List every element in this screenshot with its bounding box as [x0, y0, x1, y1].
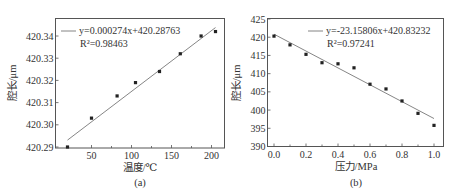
chart-b-equation: y=-23.15806x+420.83232: [326, 25, 431, 36]
data-point: [320, 61, 323, 64]
x-tick-label: 1.0: [428, 149, 441, 160]
y-tick-label: 420.31: [26, 97, 54, 108]
chart-a-r2: R²=0.98463: [80, 38, 128, 49]
y-tick-label: 390: [251, 141, 266, 152]
data-point: [179, 52, 182, 55]
x-tick-label: 0.8: [396, 149, 409, 160]
x-tick-label: 0.4: [332, 149, 345, 160]
chart-a-y-axis: 420.29420.30420.31420.32420.33420.34: [26, 31, 59, 153]
data-point: [134, 81, 137, 84]
chart-a-x-axis: 50100150200: [87, 145, 220, 161]
data-point: [200, 34, 203, 37]
y-tick-label: 395: [251, 123, 266, 134]
chart-b: 390395400405410415420425 0.00.20.40.60.8…: [230, 14, 444, 190]
data-point: [432, 124, 435, 127]
x-tick-label: 150: [164, 150, 179, 161]
chart-b-x-label: 压力/MPa: [335, 160, 378, 172]
y-tick-label: 400: [251, 105, 266, 116]
chart-b-panel-label: (b): [350, 177, 363, 189]
y-tick-label: 420.33: [26, 53, 54, 64]
x-tick-label: 100: [124, 150, 139, 161]
y-tick-label: 420: [251, 32, 266, 43]
chart-a-y-label: 腔长/μm: [6, 65, 18, 102]
x-tick-label: 50: [87, 150, 97, 161]
data-point: [400, 99, 403, 102]
data-point: [384, 87, 387, 90]
chart-a-legend: y=0.000274x+420.28763 R²=0.98463: [61, 25, 180, 49]
data-point: [90, 117, 93, 120]
y-tick-label: 420.29: [26, 142, 54, 153]
y-tick-label: 415: [251, 50, 266, 61]
x-tick-label: 200: [204, 150, 219, 161]
figure: 420.29420.30420.31420.32420.33420.34 501…: [0, 0, 450, 196]
data-point: [368, 83, 371, 86]
data-point: [116, 94, 119, 97]
data-point: [336, 62, 339, 65]
chart-a-x-label: 温度/℃: [123, 161, 158, 173]
data-point: [66, 145, 69, 148]
y-tick-label: 420.30: [26, 119, 54, 130]
chart-b-x-axis: 0.00.20.40.60.81.0: [268, 144, 441, 160]
y-tick-label: 410: [251, 68, 266, 79]
data-point: [416, 112, 419, 115]
x-tick-label: 0.2: [300, 149, 313, 160]
data-point: [304, 53, 307, 56]
x-tick-label: 0.0: [268, 149, 281, 160]
y-tick-label: 420.32: [26, 75, 54, 86]
chart-a-equation: y=0.000274x+420.28763: [79, 25, 180, 36]
chart-b-y-label: 腔长/μm: [230, 65, 242, 102]
data-point: [288, 43, 291, 46]
data-point: [352, 66, 355, 69]
data-point: [272, 35, 275, 38]
data-point: [158, 70, 161, 73]
x-tick-label: 0.6: [364, 149, 377, 160]
y-tick-label: 420.34: [26, 31, 54, 42]
data-point: [214, 30, 217, 33]
chart-a-panel-label: (a): [134, 177, 146, 189]
chart-b-r2: R²=0.97241: [327, 38, 375, 49]
y-tick-label: 425: [251, 14, 266, 25]
y-tick-label: 405: [251, 86, 266, 97]
chart-b-legend: y=-23.15806x+420.83232 R²=0.97241: [308, 25, 431, 49]
chart-a: 420.29420.30420.31420.32420.33420.34 501…: [6, 19, 225, 190]
